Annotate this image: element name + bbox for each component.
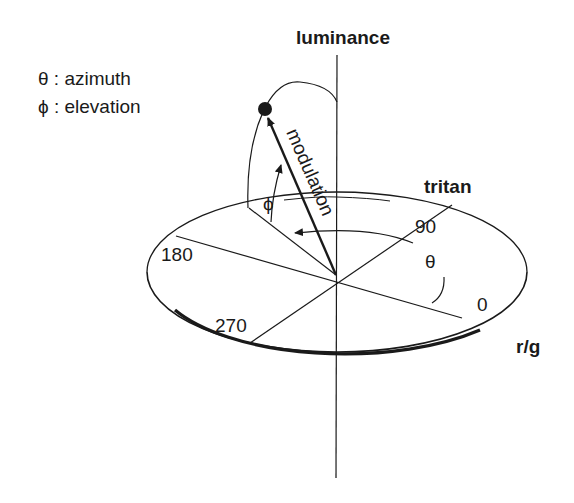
tick-270: 270 [215,315,247,336]
upper-arc [266,82,337,106]
legend-azimuth: θ : azimuth [38,68,131,89]
elevation-angle-label: ϕ [263,193,274,214]
luminance-axis-label: luminance [296,27,390,48]
azimuth-angle-label: θ [425,251,436,272]
projection-line [249,208,336,275]
luminance-axis [336,55,337,478]
color-space-diagram: θ : azimuth ϕ : elevation luminance modu… [0,0,574,503]
azimuth-arc [295,231,413,243]
theta-arc [432,277,444,303]
modulation-endpoint-dot [258,102,272,116]
tick-90: 90 [415,216,436,237]
tick-0: 0 [477,294,488,315]
elevation-meridian [248,112,263,208]
tick-180: 180 [161,244,193,265]
rg-axis [176,236,462,318]
legend-elevation: ϕ : elevation [38,96,141,117]
rg-axis-label: r/g [516,336,540,357]
tritan-axis-label: tritan [424,176,472,197]
